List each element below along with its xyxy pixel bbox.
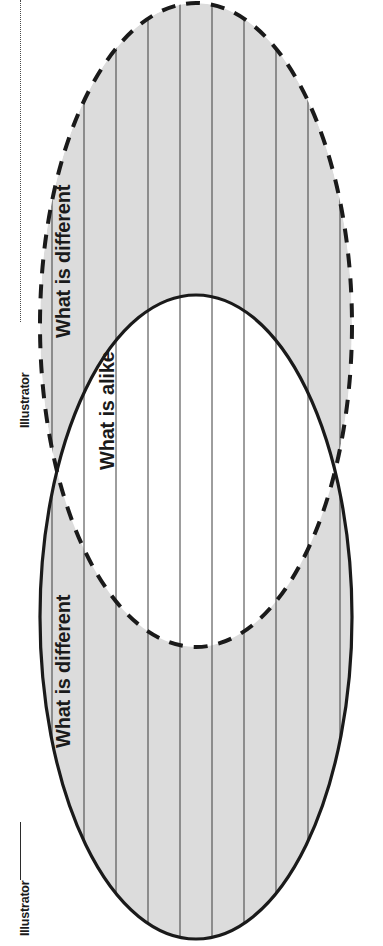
lower-set-fill [40, 295, 352, 939]
credit-leader-solid [20, 822, 21, 880]
credit-leader-dotted [20, 0, 21, 322]
label-what-is-alike: What is alike [96, 351, 119, 470]
worksheet-page: What is different What is alike What is … [0, 0, 383, 946]
label-what-is-different-upper: What is different [52, 185, 75, 338]
label-what-is-different-lower: What is different [52, 595, 75, 748]
venn-fills [40, 3, 352, 939]
credit-illustrator-top: Illustrator [18, 373, 32, 428]
credit-illustrator-bottom: Illustrator [18, 881, 32, 936]
venn-diagram [0, 0, 383, 946]
